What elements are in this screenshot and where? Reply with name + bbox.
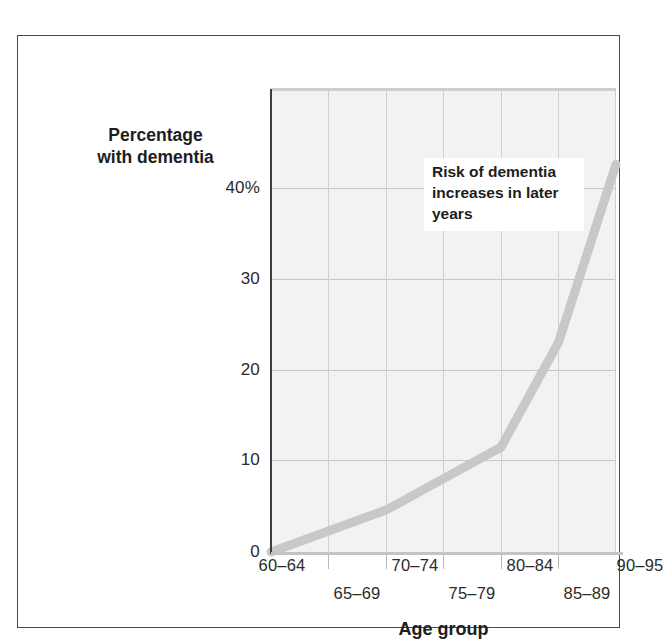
y-tick-label-40: 40% <box>70 178 270 198</box>
x-axis-title: Age group <box>271 619 616 640</box>
y-axis-tick-labels: 40% 30 20 10 0 <box>60 36 270 627</box>
x-tick-label-80-84: 80–84 <box>507 556 554 575</box>
x-tick-label-90-95: 90–95 <box>617 556 663 575</box>
y-tick-label-20: 20 <box>70 360 270 380</box>
annotation-line-2: increases in later <box>432 183 578 204</box>
x-tick-label-75-79: 75–79 <box>449 584 496 603</box>
y-tick-label-30: 30 <box>70 269 270 289</box>
x-axis-tick-labels: 60–64 65–69 70–74 75–79 80–84 85–89 90–9… <box>18 556 619 616</box>
annotation-callout: Risk of dementia increases in later year… <box>424 158 584 231</box>
x-tick-label-70-74: 70–74 <box>392 556 439 575</box>
x-tick-label-85-89: 85–89 <box>564 584 611 603</box>
annotation-line-1: Risk of dementia <box>432 162 578 183</box>
x-tick-label-65-69: 65–69 <box>334 584 381 603</box>
x-tick-label-60-64: 60–64 <box>259 556 306 575</box>
annotation-line-3: years <box>432 204 578 225</box>
figure-frame: Percentage with dementia 40% 30 20 10 0 … <box>17 35 620 628</box>
y-tick-label-10: 10 <box>70 450 270 470</box>
x-axis-line <box>271 552 623 555</box>
y-axis-line <box>270 89 272 554</box>
